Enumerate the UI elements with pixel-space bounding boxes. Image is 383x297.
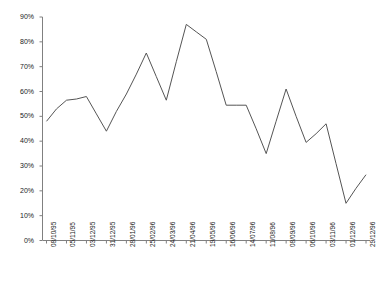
y-axis-tick-label: 70% <box>8 63 34 71</box>
x-axis-tick-label: 16/06/96 <box>229 221 236 246</box>
x-axis-tick-label: 29/12/96 <box>369 221 376 246</box>
x-axis-tick-label: 14/07/96 <box>249 221 256 246</box>
y-axis-tick-label: 90% <box>8 13 34 21</box>
y-axis-tick-label: 30% <box>8 162 34 170</box>
x-axis-tick-label: 31/12/95 <box>109 221 116 246</box>
x-axis-tick-label: 03/11/96 <box>329 222 336 247</box>
plot-area <box>0 0 383 297</box>
x-axis-tick-label: 03/12/95 <box>89 221 96 246</box>
x-axis-tick-label: 01/12/96 <box>349 221 356 246</box>
y-axis-tick-label: 40% <box>8 137 34 145</box>
y-axis-tick-label: 50% <box>8 112 34 120</box>
y-axis-tick-label: 20% <box>8 187 34 195</box>
y-axis-tick-label: 80% <box>8 38 34 46</box>
x-axis-tick-label: 11/08/96 <box>269 222 276 247</box>
x-axis-tick-label: 19/05/96 <box>209 221 216 246</box>
x-axis-tick-label: 08/09/96 <box>289 221 296 246</box>
line-chart: 0%10%20%30%40%50%60%70%80%90% 08/10/9505… <box>0 0 383 297</box>
x-axis-tick-label: 24/03/96 <box>169 221 176 246</box>
x-axis-tick-label: 08/10/95 <box>50 221 57 246</box>
y-axis-tick-label: 10% <box>8 212 34 220</box>
x-axis-tick-label: 21/04/96 <box>189 221 196 246</box>
y-axis-tick-label: 60% <box>8 88 34 96</box>
y-axis-tick-label: 0% <box>8 237 34 245</box>
x-axis-tick-label: 28/01/96 <box>129 221 136 246</box>
x-axis-tick-label: 06/10/96 <box>309 221 316 246</box>
data-series-line <box>47 24 367 203</box>
x-axis-tick-label: 05/11/95 <box>69 222 76 247</box>
x-axis-tick-label: 25/02/96 <box>149 221 156 246</box>
